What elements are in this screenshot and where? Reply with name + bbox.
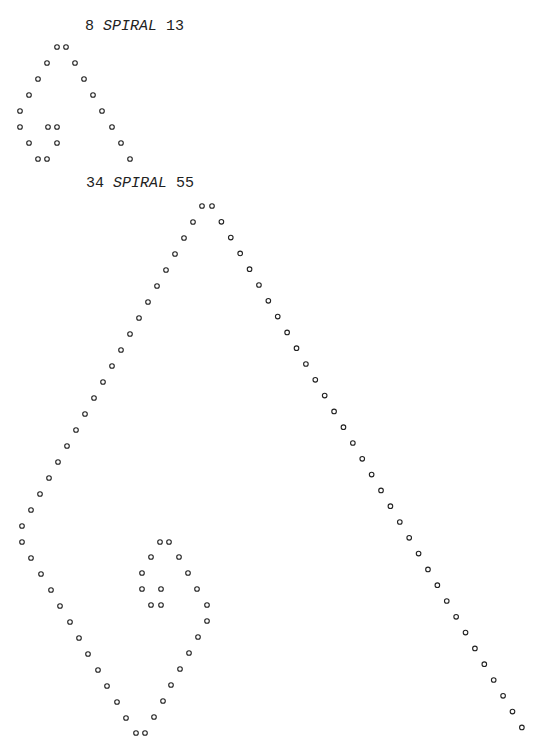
spiral-dot-icon: [426, 567, 431, 572]
spiral-dot-icon: [294, 346, 299, 351]
spiral-dot-icon: [219, 220, 224, 225]
spiral-dot-icon: [379, 488, 384, 493]
spiral-dot-icon: [110, 125, 115, 130]
spiral-dot-icon: [407, 536, 412, 541]
spiral-dot-icon: [501, 694, 506, 699]
spiral-dot-icon: [20, 524, 25, 529]
spiral-dot-icon: [196, 635, 201, 640]
spiral-dot-icon: [159, 587, 164, 592]
spiral-dot-icon: [36, 157, 41, 162]
spiral-dot-icon: [398, 520, 403, 525]
spiral-dot-icon: [101, 380, 106, 385]
spiral-dot-icon: [491, 678, 496, 683]
spiral-dot-icon: [38, 492, 43, 497]
spiral-dot-icon: [140, 587, 145, 592]
spiral-dot-icon: [134, 731, 139, 736]
spiral-dot-icon: [58, 604, 63, 609]
spiral-dot-icon: [140, 571, 145, 576]
spiral-dot-icon: [77, 636, 82, 641]
spiral-dot-icon: [238, 251, 243, 256]
spiral-dot-icon: [159, 603, 164, 608]
spiral-dot-icon: [49, 588, 54, 593]
spiral-dot-icon: [161, 699, 166, 704]
spiral-dot-icon: [64, 45, 69, 50]
spiral-dot-icon: [182, 236, 187, 241]
spiral-dot-icon: [91, 93, 96, 98]
spiral-dot-icon: [177, 555, 182, 560]
spiral-dot-icon: [39, 572, 44, 577]
spiral-dot-icon: [45, 157, 50, 162]
spiral-dot-icon: [47, 476, 52, 481]
spiral-dot-icon: [29, 556, 34, 561]
spiral-dot-icon: [388, 504, 393, 509]
spiral-dot-icon: [36, 77, 41, 82]
spiral-dot-icon: [520, 725, 525, 730]
spiral-dot-icon: [463, 630, 468, 635]
spiral-dot-icon: [73, 61, 78, 66]
spiral-dot-icon: [435, 583, 440, 588]
spiral-dot-icon: [322, 393, 327, 398]
spiral-dot-icon: [100, 109, 105, 114]
spiral-dot-icon: [55, 125, 60, 130]
spiral-dot-icon: [18, 109, 23, 114]
spiral-dot-icon: [200, 204, 205, 209]
spiral-dot-icon: [444, 599, 449, 604]
spiral-dot-icon: [149, 603, 154, 608]
spiral-dot-icon: [124, 716, 129, 721]
spiral-dot-icon: [416, 551, 421, 556]
spiral-dot-icon: [341, 425, 346, 430]
spiral-dot-icon: [482, 662, 487, 667]
spiral-dot-icon: [369, 472, 374, 477]
spiral-dot-icon: [158, 540, 163, 545]
spiral-dot-icon: [46, 125, 51, 130]
spiral-dot-icon: [128, 332, 133, 337]
spiral-dot-icon: [187, 651, 192, 656]
spiral-dot-icon: [164, 268, 169, 273]
spiral-34-55-dots: [20, 204, 524, 736]
spiral-dot-icon: [186, 571, 191, 576]
spiral-dot-icon: [205, 603, 210, 608]
spiral-dot-icon: [119, 141, 124, 146]
spiral-dot-icon: [119, 348, 124, 353]
spiral-dot-icon: [195, 587, 200, 592]
spiral-dot-icon: [510, 709, 515, 714]
spiral-dot-icon: [55, 141, 60, 146]
spiral-dot-icon: [29, 508, 34, 513]
spiral-dot-icon: [128, 157, 133, 162]
spiral-dot-icon: [351, 441, 356, 446]
spiral-dot-icon: [473, 646, 478, 651]
spiral-dot-icon: [56, 460, 61, 465]
spiral-dot-icon: [143, 731, 148, 736]
spiral-dot-icon: [115, 700, 120, 705]
spiral-dot-icon: [18, 125, 23, 130]
spiral-dot-icon: [86, 652, 91, 657]
spiral-dot-icon: [110, 364, 115, 369]
spiral-dot-icon: [96, 668, 101, 673]
spiral-dot-icon: [167, 540, 172, 545]
spiral-dot-icon: [247, 267, 252, 272]
spiral-plots: [0, 0, 555, 754]
spiral-dot-icon: [169, 683, 174, 688]
spiral-dot-icon: [155, 284, 160, 289]
spiral-dot-icon: [178, 667, 183, 672]
spiral-8-13-dots: [18, 45, 133, 162]
spiral-dot-icon: [45, 61, 50, 66]
spiral-dot-icon: [105, 684, 110, 689]
spiral-dot-icon: [27, 141, 32, 146]
spiral-dot-icon: [68, 620, 73, 625]
spiral-dot-icon: [257, 283, 262, 288]
spiral-dot-icon: [83, 412, 88, 417]
spiral-dot-icon: [65, 444, 70, 449]
spiral-dot-icon: [149, 555, 154, 560]
spiral-dot-icon: [313, 378, 318, 383]
spiral-dot-icon: [205, 619, 210, 624]
spiral-dot-icon: [210, 204, 215, 209]
spiral-dot-icon: [454, 615, 459, 620]
spiral-dot-icon: [74, 428, 79, 433]
spiral-dot-icon: [55, 45, 60, 50]
spiral-dot-icon: [304, 362, 309, 367]
spiral-dot-icon: [275, 314, 280, 319]
spiral-dot-icon: [137, 316, 142, 321]
spiral-dot-icon: [332, 409, 337, 414]
spiral-dot-icon: [191, 220, 196, 225]
